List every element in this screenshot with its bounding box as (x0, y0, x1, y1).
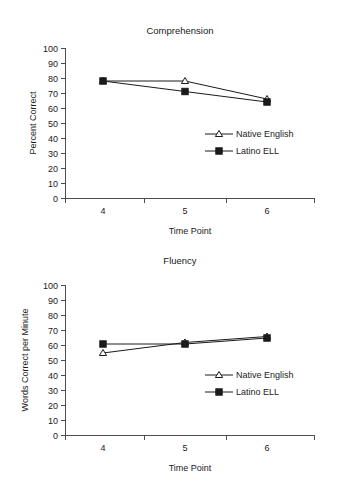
legend-label-latino-ell: Latino ELL (236, 146, 279, 156)
y-tick-label-100: 100 (43, 44, 58, 54)
x-tick-label-4: 4 (100, 206, 105, 216)
data-marker (264, 335, 270, 341)
y-tick-label-20: 20 (48, 401, 58, 411)
x-tick-label-6: 6 (264, 443, 269, 453)
y-tick-marks (61, 286, 66, 436)
legend-item-latino-ell: Latino ELL (205, 387, 279, 397)
x-tick-label-6: 6 (264, 206, 269, 216)
y-axis-title: Words Correct per Minute (20, 309, 30, 412)
y-tick-label-0: 0 (53, 431, 58, 441)
legend-item-native-english: Native English (205, 129, 294, 139)
data-marker (100, 78, 106, 84)
y-axis: 100 90 80 70 60 50 40 30 20 10 0 (43, 281, 66, 441)
y-tick-label-50: 50 (48, 119, 58, 129)
fluency-chart-panel: Fluency Words Correct per Minute 100 90 … (0, 242, 356, 483)
y-axis: 100 90 80 70 60 50 40 30 20 10 0 (43, 44, 66, 204)
y-tick-label-90: 90 (48, 59, 58, 69)
y-tick-label-100: 100 (43, 281, 58, 291)
y-tick-marks (61, 49, 66, 199)
y-tick-label-20: 20 (48, 164, 58, 174)
comprehension-chart-panel: Comprehension Percent Correct 100 90 80 … (0, 0, 356, 241)
chart-title: Comprehension (146, 25, 213, 36)
chart-title: Fluency (163, 255, 197, 266)
legend-item-latino-ell: Latino ELL (205, 146, 279, 156)
x-axis-title: Time Point (169, 463, 212, 473)
y-tick-label-40: 40 (48, 371, 58, 381)
y-tick-label-60: 60 (48, 104, 58, 114)
x-axis-title: Time Point (169, 226, 212, 236)
x-tick-label-5: 5 (182, 443, 187, 453)
comprehension-plot-svg: Comprehension Percent Correct 100 90 80 … (0, 0, 356, 241)
fluency-plot-svg: Fluency Words Correct per Minute 100 90 … (0, 242, 356, 483)
filled-square-icon (216, 148, 222, 154)
y-tick-label-60: 60 (48, 341, 58, 351)
data-marker (182, 341, 188, 347)
data-marker (100, 341, 106, 347)
series-latino-ell (100, 335, 270, 347)
y-tick-label-90: 90 (48, 296, 58, 306)
data-marker (264, 99, 270, 105)
y-tick-label-50: 50 (48, 356, 58, 366)
legend: Native English Latino ELL (205, 129, 294, 156)
legend-item-native-english: Native English (205, 370, 294, 380)
y-tick-label-80: 80 (48, 311, 58, 321)
data-marker (182, 88, 188, 94)
legend-label-native-english: Native English (236, 370, 294, 380)
y-tick-label-10: 10 (48, 179, 58, 189)
legend-label-latino-ell: Latino ELL (236, 387, 279, 397)
y-tick-label-80: 80 (48, 74, 58, 84)
x-axis: 4 5 6 (65, 436, 315, 454)
legend: Native English Latino ELL (205, 370, 294, 397)
y-tick-label-70: 70 (48, 89, 58, 99)
y-tick-label-10: 10 (48, 416, 58, 426)
x-axis: 4 5 6 (65, 199, 315, 217)
y-tick-label-30: 30 (48, 149, 58, 159)
y-axis-title: Percent Correct (28, 91, 38, 155)
y-tick-label-40: 40 (48, 134, 58, 144)
x-tick-label-4: 4 (100, 443, 105, 453)
filled-square-icon (216, 389, 222, 395)
x-tick-label-5: 5 (182, 206, 187, 216)
y-tick-label-0: 0 (53, 194, 58, 204)
y-tick-label-30: 30 (48, 386, 58, 396)
legend-label-native-english: Native English (236, 129, 294, 139)
y-tick-label-70: 70 (48, 326, 58, 336)
